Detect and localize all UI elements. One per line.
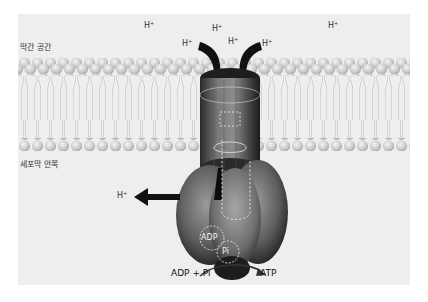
proton-exit-arrow-icon (134, 188, 180, 206)
substrate-label: ADP + Pi (171, 268, 211, 278)
proton-label: H+ (144, 21, 154, 30)
intermembrane-space-label: 막간 공간 (20, 41, 51, 52)
adp-site-label: ADP (201, 233, 217, 242)
proton-label: H+ (117, 191, 127, 200)
proton-label: H+ (228, 37, 238, 46)
proton-label: H+ (328, 21, 338, 30)
atp-synthase-diagram (0, 0, 428, 302)
proton-label: H+ (212, 24, 222, 33)
proton-label: H+ (262, 39, 272, 48)
matrix-side-label: 세포막 안쪽 (20, 158, 58, 169)
pi-site-label: Pi (222, 247, 229, 256)
proton-label: H+ (182, 39, 192, 48)
product-label: ATP (260, 268, 276, 278)
